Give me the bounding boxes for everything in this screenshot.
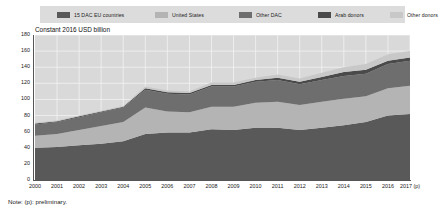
x-axis: 2000200120022003200420052006200720082009… bbox=[35, 181, 410, 195]
y-axis-tick-label: 160 bbox=[21, 48, 30, 53]
x-axis-tick-label: 2007 bbox=[183, 183, 195, 189]
x-axis-tick-label: 2011 bbox=[272, 183, 284, 189]
legend-swatch-icon bbox=[57, 12, 70, 18]
legend-item[interactable]: Arab donors bbox=[318, 6, 364, 23]
x-axis-tick-label: 2015 bbox=[360, 183, 372, 189]
legend-item-label: United States bbox=[172, 12, 204, 18]
y-axis-tick-label: 60 bbox=[24, 129, 30, 134]
x-axis-tick-label: 2014 bbox=[338, 183, 350, 189]
legend-item[interactable]: Other donors bbox=[390, 6, 438, 23]
y-axis-tick-label: 0 bbox=[27, 177, 30, 182]
plot-area bbox=[35, 35, 410, 180]
x-axis-tick-label: 2017 (p) bbox=[400, 183, 420, 189]
chart-figure: 15 DAC EU countriesUnited StatesOther DA… bbox=[0, 0, 445, 215]
x-axis-tick-label: 2010 bbox=[250, 183, 262, 189]
legend-swatch-icon bbox=[155, 12, 168, 18]
legend-item[interactable]: Other DAC bbox=[239, 6, 282, 23]
legend-item-label: Other donors bbox=[407, 12, 438, 18]
y-axis-title: Constant 2016 USD billion bbox=[35, 26, 110, 33]
y-axis-tick-label: 80 bbox=[24, 113, 30, 118]
x-axis-tick-label: 2000 bbox=[29, 183, 41, 189]
y-axis-tick-label: 100 bbox=[21, 97, 30, 102]
x-axis-tick-label: 2001 bbox=[51, 183, 63, 189]
legend-item-label: Other DAC bbox=[256, 12, 282, 18]
x-axis-tick-label: 2004 bbox=[117, 183, 129, 189]
x-axis-tick-label: 2013 bbox=[316, 183, 328, 189]
x-axis-tick-label: 2002 bbox=[73, 183, 85, 189]
legend-item[interactable]: 15 DAC EU countries bbox=[57, 6, 124, 23]
stacked-area-chart bbox=[35, 35, 410, 180]
x-axis-tick-label: 2008 bbox=[205, 183, 217, 189]
y-axis-tick-label: 140 bbox=[21, 65, 30, 70]
y-axis: 020406080100120140160180 bbox=[0, 35, 33, 180]
legend-item-label: Arab donors bbox=[335, 12, 364, 18]
x-axis-tick-label: 2003 bbox=[95, 183, 107, 189]
legend-swatch-icon bbox=[390, 12, 403, 18]
x-axis-tick-label: 2016 bbox=[382, 183, 394, 189]
legend-item-label: 15 DAC EU countries bbox=[74, 12, 124, 18]
legend-swatch-icon bbox=[318, 12, 331, 18]
y-axis-tick-label: 180 bbox=[21, 32, 30, 37]
x-axis-tick-label: 2009 bbox=[228, 183, 240, 189]
chart-note: Note: (p): preliminary. bbox=[8, 198, 67, 205]
legend-item[interactable]: United States bbox=[155, 6, 204, 23]
x-axis-tick-label: 2012 bbox=[294, 183, 306, 189]
y-axis-line bbox=[33, 35, 34, 181]
chart-legend: 15 DAC EU countriesUnited StatesOther DA… bbox=[40, 6, 405, 23]
y-axis-tick-label: 20 bbox=[24, 161, 30, 166]
legend-swatch-icon bbox=[239, 12, 252, 18]
x-axis-tick-label: 2006 bbox=[161, 183, 173, 189]
y-axis-tick-label: 40 bbox=[24, 145, 30, 150]
x-axis-tick-label: 2005 bbox=[139, 183, 151, 189]
y-axis-tick-label: 120 bbox=[21, 81, 30, 86]
